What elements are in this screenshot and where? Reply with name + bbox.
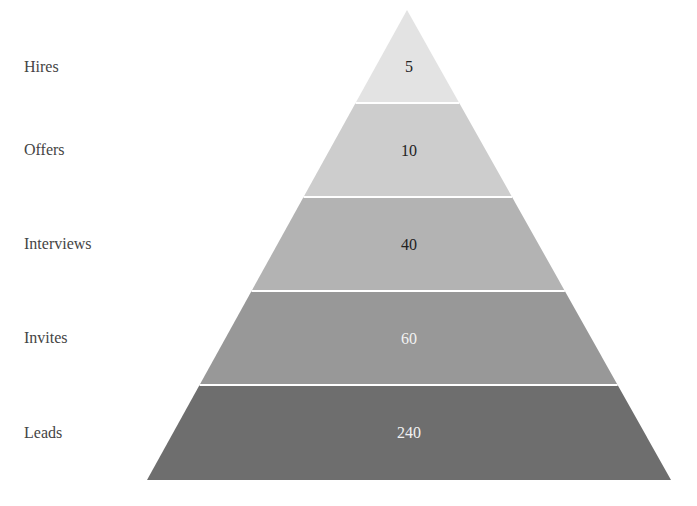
value-label-offers: 10 — [401, 142, 417, 159]
stage-label-interviews: Interviews — [24, 235, 92, 253]
value-label-leads: 240 — [397, 424, 421, 441]
stage-label-leads: Leads — [24, 424, 62, 442]
value-label-interviews: 40 — [401, 236, 417, 253]
funnel-pyramid-chart: 5104060240 — [0, 0, 697, 506]
stage-label-hires: Hires — [24, 58, 59, 76]
stage-label-offers: Offers — [24, 141, 65, 159]
pyramid-layer-hires — [356, 10, 460, 103]
value-label-invites: 60 — [401, 330, 417, 347]
value-label-hires: 5 — [405, 58, 413, 75]
stage-label-invites: Invites — [24, 329, 68, 347]
